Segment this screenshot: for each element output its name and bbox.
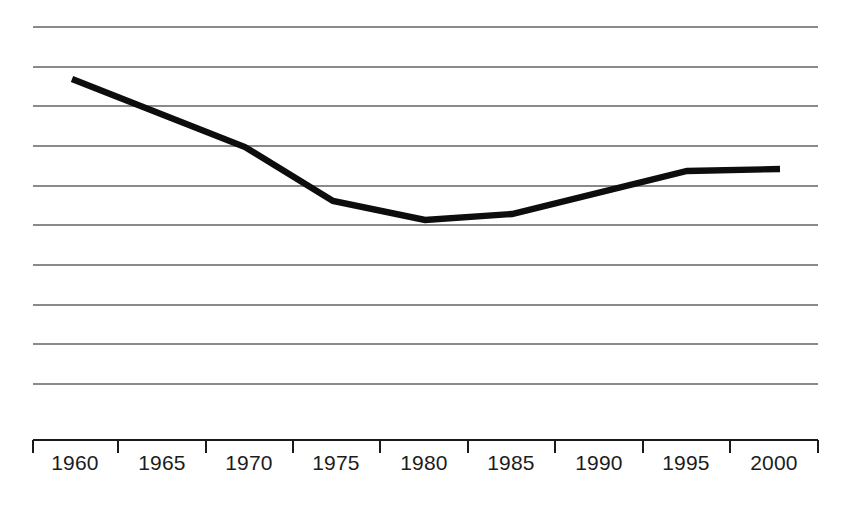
chart-container: 1960 1965 1970 1975 1980 1985 1990 1995 … — [0, 0, 853, 505]
x-axis-group — [33, 440, 818, 453]
data-line-series-1 — [72, 79, 780, 220]
chart-plot-area — [0, 0, 853, 505]
data-series-group — [72, 79, 780, 220]
gridlines-group — [33, 27, 818, 384]
